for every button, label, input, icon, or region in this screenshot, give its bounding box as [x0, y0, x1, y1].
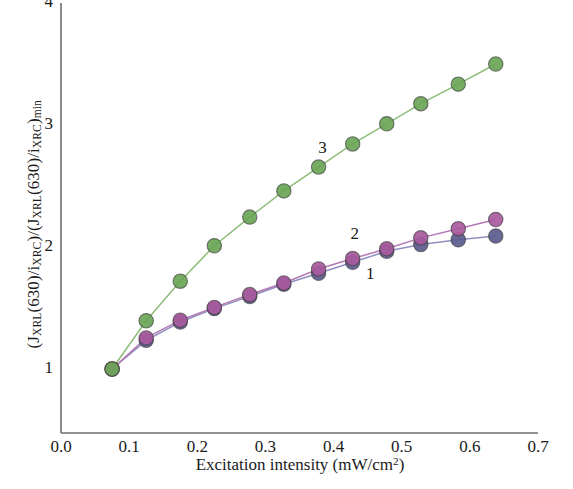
- y-tick-label: 4: [27, 0, 53, 12]
- y-tick-label: 3: [27, 114, 53, 134]
- x-tick-label: 0.5: [378, 437, 426, 457]
- data-point: [139, 331, 153, 345]
- data-point: [380, 242, 394, 256]
- x-tick-label: 0.3: [241, 437, 289, 457]
- plot-area: [0, 0, 573, 489]
- data-point: [489, 229, 503, 243]
- data-point: [243, 287, 257, 301]
- x-tick-label: 0.1: [105, 437, 153, 457]
- data-point: [139, 314, 153, 328]
- series-markers-2: [105, 212, 503, 376]
- data-point: [451, 77, 465, 91]
- data-point: [207, 300, 221, 314]
- data-point: [277, 184, 291, 198]
- chart-figure: (JXRL(630)/iXRC)/(JXRL(630)/iXRC)min Exc…: [0, 0, 573, 489]
- data-point: [243, 210, 257, 224]
- x-axis-label: Excitation intensity (mW/cm2): [60, 455, 540, 475]
- x-tick-label: 0.2: [173, 437, 221, 457]
- series-3: [112, 64, 496, 369]
- data-point: [489, 57, 503, 71]
- data-point: [414, 96, 428, 110]
- series-line-3: [112, 64, 496, 369]
- x-tick-label: 0.0: [37, 437, 85, 457]
- data-point: [277, 276, 291, 290]
- data-point: [489, 212, 503, 226]
- series-line-1: [112, 236, 496, 369]
- series-1: [112, 236, 496, 369]
- x-tick-label: 0.7: [514, 437, 562, 457]
- curve-label-2: 2: [350, 224, 359, 244]
- data-point: [173, 313, 187, 327]
- x-tick-label: 0.4: [310, 437, 358, 457]
- x-axis-label-text: Excitation intensity (mW/cm2): [196, 455, 405, 474]
- data-point: [345, 251, 359, 265]
- y-tick-label: 1: [27, 358, 53, 378]
- data-point: [105, 362, 119, 376]
- x-tick-label: 0.6: [446, 437, 494, 457]
- y-tick-label: 2: [27, 236, 53, 256]
- series-markers-1: [105, 229, 503, 376]
- data-point: [311, 160, 325, 174]
- curve-label-3: 3: [318, 138, 327, 158]
- data-point: [414, 231, 428, 245]
- data-point: [311, 262, 325, 276]
- data-point: [345, 137, 359, 151]
- data-point: [207, 239, 221, 253]
- data-point: [451, 222, 465, 236]
- curve-label-1: 1: [366, 264, 375, 284]
- data-point: [380, 117, 394, 131]
- data-point: [173, 274, 187, 288]
